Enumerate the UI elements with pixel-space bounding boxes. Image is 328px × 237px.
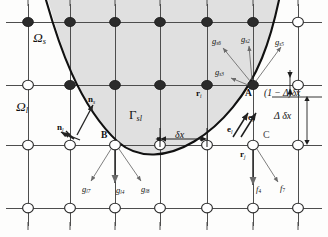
label-r-i: ri xyxy=(196,89,202,99)
g-l7-subscript: l7 xyxy=(86,188,90,194)
label-g-s5: gs5 xyxy=(275,38,284,48)
label-g-s6: gs6 xyxy=(212,37,221,47)
figure-canvas: Ωs Ωl Γsl ns nl A B C ri rj el es gs6 gs… xyxy=(0,0,328,237)
g-l8-subscript: l8 xyxy=(145,188,149,194)
label-point-a: A xyxy=(245,89,252,99)
g-s3-subscript: s3 xyxy=(219,71,224,77)
e-l-subscript: l xyxy=(231,129,233,135)
f-arrows-from-c xyxy=(253,149,278,185)
g-l4-subscript: l4 xyxy=(120,189,124,195)
label-f-7: f7 xyxy=(280,184,285,194)
label-normal-liquid: nl xyxy=(57,123,64,133)
label-g-l7: gl7 xyxy=(82,185,90,195)
g-s5-subscript: s5 xyxy=(279,41,284,47)
f-7-subscript: 7 xyxy=(282,187,285,193)
label-point-c: C xyxy=(263,130,270,140)
f-4-subscript: 4 xyxy=(258,188,261,194)
g-s2-subscript: s2 xyxy=(245,38,250,44)
label-g-l8: gl8 xyxy=(141,185,149,195)
omega-l-symbol: Ω xyxy=(16,99,26,114)
label-e-s: es xyxy=(248,113,254,123)
g-s6-subscript: s6 xyxy=(216,40,221,46)
label-g-s3: gs3 xyxy=(215,68,224,78)
label-g-l4: gl4 xyxy=(116,186,124,196)
gamma-symbol: Γ xyxy=(129,107,137,122)
label-r-j: rj xyxy=(240,150,246,160)
label-liquid-region: Ωl xyxy=(16,100,28,116)
label-f-4: f4 xyxy=(256,185,261,195)
n-s-subscript: s xyxy=(93,99,95,105)
label-spacing-delta-x: δx xyxy=(175,130,184,140)
gl-arrows-from-b xyxy=(91,149,141,183)
e-s-subscript: s xyxy=(252,117,254,123)
label-gap-lower: Δ δx xyxy=(274,111,291,121)
omega-s-subscript: s xyxy=(43,37,46,46)
omega-l-subscript: l xyxy=(26,106,28,115)
label-g-s2: gs2 xyxy=(241,35,250,45)
label-e-l: el xyxy=(227,125,233,135)
gamma-subscript: sl xyxy=(137,114,142,123)
label-point-b: B xyxy=(101,131,107,141)
label-gap-upper: (1 − Δ)δx xyxy=(264,89,300,99)
label-normal-solid: ns xyxy=(88,95,95,105)
label-interface: Γsl xyxy=(129,108,142,123)
r-i-subscript: i xyxy=(200,93,202,99)
r-j-subscript: j xyxy=(244,154,246,160)
n-l-subscript: l xyxy=(62,127,64,133)
label-solid-region: Ωs xyxy=(33,31,46,47)
omega-s-symbol: Ω xyxy=(33,30,43,45)
